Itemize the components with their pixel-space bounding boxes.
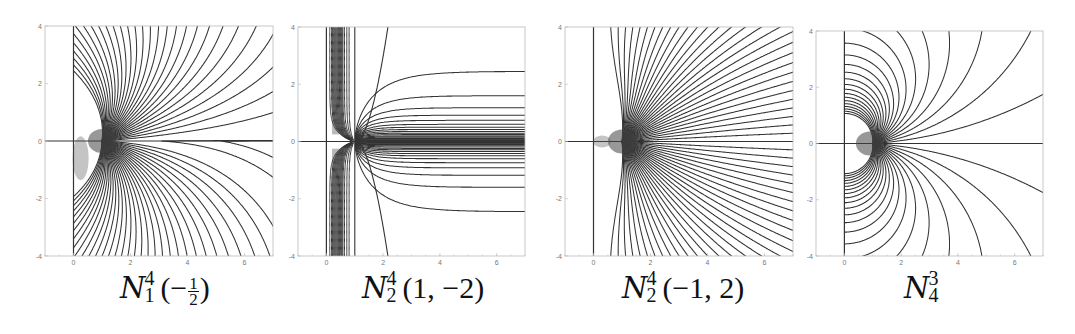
caption-subscript: 2 [646,285,656,305]
x-tick-label: 6 [1013,259,1017,266]
y-tick-label: -2 [807,196,813,203]
caption-symbol: N [362,271,386,305]
caption-fraction: 12 [188,276,199,307]
fraction-denominator: 2 [188,292,199,307]
y-tick-label: 4 [809,28,813,35]
caption-n4-3: N34 [904,272,944,303]
y-tick-label: 0 [809,140,813,147]
caption-args-close: ) [200,271,210,304]
caption-subscript: 1 [144,285,154,305]
x-tick-label: 2 [899,259,903,266]
caption-n2-4-b: N42(−1, 2) [622,272,744,303]
caption-args: (−1, 2) [662,271,744,304]
x-tick-label: 4 [956,259,960,266]
y-tick-label: -4 [807,253,813,260]
plot-n4-3: 0246-4-2024 [0,0,1075,270]
caption-subscript: 4 [928,285,938,305]
x-tick-label: 0 [842,259,846,266]
caption-n1-4: N41(−12) [120,272,210,307]
y-tick-label: 2 [809,84,813,91]
caption-subscript: 2 [386,285,396,305]
caption-args: (− [160,271,187,304]
caption-args: (1, −2) [402,271,484,304]
caption-symbol: N [120,271,144,305]
caption-symbol: N [904,271,928,305]
curve-family [810,25,1048,261]
caption-symbol: N [622,271,646,305]
caption-n2-4-a: N42(1, −2) [362,272,484,303]
